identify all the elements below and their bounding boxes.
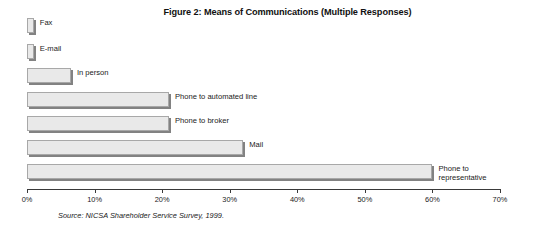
bar-row: In person: [27, 68, 500, 84]
x-axis-tick: [365, 189, 366, 193]
bar-row: Phone to automated line: [27, 92, 500, 108]
bar-row: Phone to broker: [27, 116, 500, 132]
plot-area: FaxE-mailIn personPhone to automated lin…: [27, 18, 500, 189]
chart-title: Figure 2: Means of Communications (Multi…: [0, 7, 533, 17]
figure-container: Figure 2: Means of Communications (Multi…: [0, 0, 533, 227]
bar-row: E-mail: [27, 44, 500, 60]
bar-row: Fax: [27, 18, 500, 34]
x-axis-tick: [162, 189, 163, 193]
bar-category-label: Phone to automated line: [175, 93, 257, 102]
x-axis-tick-label: 20%: [155, 195, 170, 204]
bar-category-label: In person: [77, 69, 109, 78]
bar[interactable]: [27, 140, 243, 155]
x-axis-tick-label: 70%: [493, 195, 508, 204]
bar[interactable]: [27, 44, 34, 59]
x-axis-tick: [432, 189, 433, 193]
bar[interactable]: [27, 68, 71, 83]
bar-category-label: Phone to representative: [438, 165, 486, 182]
x-axis-line: [27, 189, 500, 190]
x-axis-tick: [297, 189, 298, 193]
x-axis-tick-label: 60%: [425, 195, 440, 204]
x-axis-tick-label: 50%: [357, 195, 372, 204]
bar-category-label: E-mail: [40, 45, 62, 54]
source-note: Source: NICSA Shareholder Service Survey…: [58, 211, 224, 220]
bar[interactable]: [27, 164, 432, 179]
bar[interactable]: [27, 18, 34, 33]
x-axis-tick-label: 30%: [222, 195, 237, 204]
bar-row: Phone to representative: [27, 164, 500, 180]
x-axis-tick: [27, 189, 28, 193]
bar-row: Mail: [27, 140, 500, 156]
x-axis-tick: [500, 189, 501, 193]
x-axis-tick-label: 10%: [87, 195, 102, 204]
bar-category-label: Mail: [249, 141, 263, 150]
x-axis-tick: [230, 189, 231, 193]
bar-category-label: Phone to broker: [175, 117, 229, 126]
bar[interactable]: [27, 92, 169, 107]
x-axis-tick-label: 40%: [290, 195, 305, 204]
x-axis-tick: [95, 189, 96, 193]
bar-category-label: Fax: [40, 19, 53, 28]
x-axis-tick-label: 0%: [22, 195, 33, 204]
bar[interactable]: [27, 116, 169, 131]
